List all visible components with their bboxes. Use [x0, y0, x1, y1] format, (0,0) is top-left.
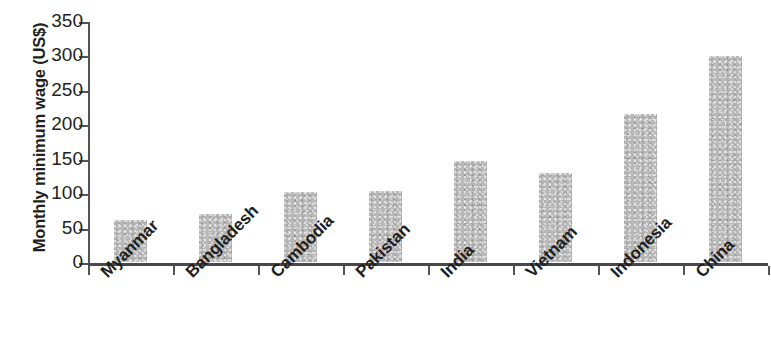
y-axis-tick-label: 250	[51, 80, 83, 100]
y-axis-tick-label: 300	[51, 45, 83, 65]
y-axis-tick-label: 350	[51, 11, 83, 31]
x-axis-tick-mark	[768, 266, 770, 275]
y-axis-tick-label: 0	[72, 252, 83, 272]
y-axis-tick-label: 150	[51, 149, 83, 169]
y-axis-line	[88, 22, 90, 265]
x-axis-labels: MyanmarBangladeshCambodiaPakistanIndiaVi…	[88, 268, 768, 360]
y-axis-title: Monthly minimum wage (US$)	[30, 3, 49, 273]
y-axis-tick-label: 50	[62, 218, 83, 238]
y-axis-tick-label: 200	[51, 114, 83, 134]
y-axis-tick-label: 100	[51, 183, 83, 203]
bar	[709, 56, 742, 262]
bar-chart: Monthly minimum wage (US$) 0501001502002…	[0, 0, 771, 360]
